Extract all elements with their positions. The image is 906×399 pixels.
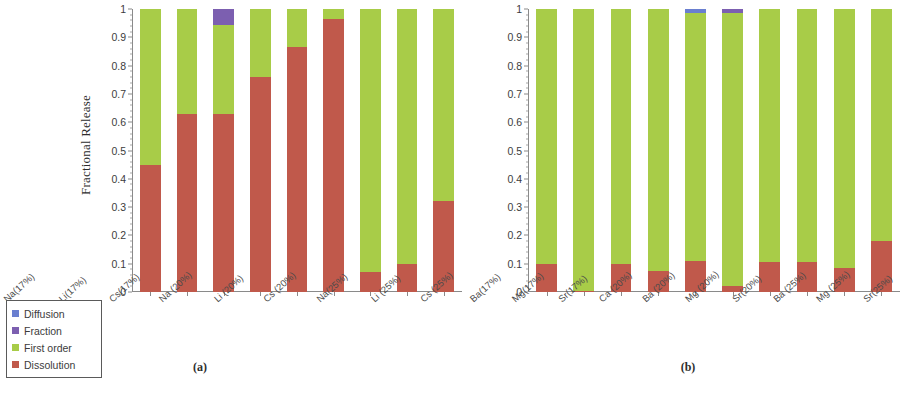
bar-segment-dissolution bbox=[287, 47, 308, 292]
x-axis-labels-b: Ba(17%)Mg(17%)Sr(17%)Ca (20%)Ba (20%)Mg … bbox=[470, 292, 906, 352]
legend-item-label: Diffusion bbox=[24, 308, 65, 320]
bar-segment-fraction bbox=[213, 9, 234, 25]
y-axis-tick-mark bbox=[524, 150, 528, 151]
panel-caption-b: (b) bbox=[470, 360, 906, 375]
legend-item[interactable]: Dissolution bbox=[12, 356, 97, 373]
y-axis-minor-tick bbox=[130, 224, 133, 225]
y-axis-minor-tick bbox=[130, 48, 133, 49]
y-axis-minor-tick bbox=[526, 105, 529, 106]
bar-segment-dissolution bbox=[759, 262, 780, 292]
y-axis-minor-tick bbox=[526, 161, 529, 162]
stacked-bar[interactable] bbox=[287, 9, 308, 292]
y-axis-tick-mark bbox=[128, 93, 132, 94]
chart-panel-b: 00.10.20.30.40.50.60.70.80.91 Ba(17%)Mg(… bbox=[470, 0, 906, 399]
stacked-bar[interactable] bbox=[834, 9, 855, 292]
bar-slot bbox=[389, 9, 426, 292]
x-label-slot: Cs(17%) bbox=[104, 292, 156, 352]
y-axis-minor-tick bbox=[526, 173, 529, 174]
stacked-bar[interactable] bbox=[611, 9, 632, 292]
x-label-slot: Sr(25%) bbox=[862, 292, 906, 352]
x-label-slot: Mg (20%) bbox=[688, 292, 732, 352]
bar-segment-first-order bbox=[433, 9, 454, 201]
y-axis-tick-mark bbox=[128, 150, 132, 151]
bar-segment-first-order bbox=[611, 9, 632, 264]
bar-slot bbox=[132, 9, 169, 292]
y-axis-minor-tick bbox=[526, 110, 529, 111]
bar-segment-first-order bbox=[323, 9, 344, 19]
x-label-slot: Mg(17%) bbox=[514, 292, 558, 352]
y-axis-minor-tick bbox=[130, 116, 133, 117]
stacked-bar[interactable] bbox=[360, 9, 381, 292]
bar-slot bbox=[279, 9, 316, 292]
y-axis-tick-mark bbox=[128, 235, 132, 236]
y-axis-minor-tick bbox=[130, 246, 133, 247]
stacked-bar[interactable] bbox=[323, 9, 344, 292]
y-axis-tick-mark bbox=[128, 122, 132, 123]
stacked-bar[interactable] bbox=[648, 9, 669, 292]
bar-slot bbox=[528, 9, 565, 292]
bar-segment-dissolution bbox=[177, 114, 198, 292]
bar-segment-first-order bbox=[834, 9, 855, 268]
bar-segment-dissolution bbox=[213, 114, 234, 292]
bar-segment-first-order bbox=[685, 13, 706, 261]
x-label-slot: Li (25%) bbox=[366, 292, 418, 352]
stacked-bar[interactable] bbox=[397, 9, 418, 292]
x-axis-tick-label: Ba(17%) bbox=[467, 271, 502, 304]
bar-segment-first-order bbox=[573, 9, 594, 291]
bar-segment-first-order bbox=[250, 9, 271, 77]
legend-swatch-icon bbox=[12, 361, 19, 368]
x-label-slot: Mg (25%) bbox=[819, 292, 863, 352]
x-label-slot: Na (20%) bbox=[157, 292, 209, 352]
legend-item-label: Dissolution bbox=[24, 359, 75, 371]
bar-segment-first-order bbox=[140, 9, 161, 165]
y-axis-minor-tick bbox=[526, 275, 529, 276]
plot-area-b: 00.10.20.30.40.50.60.70.80.91 bbox=[528, 9, 900, 292]
y-axis-minor-tick bbox=[526, 258, 529, 259]
bar-segment-dissolution bbox=[250, 77, 271, 292]
stacked-bar[interactable] bbox=[140, 9, 161, 292]
x-label-slot: Ba (20%) bbox=[644, 292, 688, 352]
y-axis-minor-tick bbox=[130, 133, 133, 134]
stacked-bar[interactable] bbox=[433, 9, 454, 292]
x-label-slot: Sr(20%) bbox=[732, 292, 776, 352]
bar-segment-first-order bbox=[871, 9, 892, 241]
bar-segment-first-order bbox=[536, 9, 557, 264]
legend-item[interactable]: Diffusion bbox=[12, 305, 97, 322]
bar-segment-first-order bbox=[797, 9, 818, 262]
legend-swatch-icon bbox=[12, 327, 19, 334]
stacked-bar[interactable] bbox=[871, 9, 892, 292]
stacked-bar[interactable] bbox=[759, 9, 780, 292]
plot-area-a: 00.10.20.30.40.50.60.70.80.91 bbox=[132, 9, 462, 292]
y-axis-tick-mark bbox=[128, 178, 132, 179]
stacked-bar[interactable] bbox=[573, 9, 594, 292]
bar-slot bbox=[863, 9, 900, 292]
stacked-bar[interactable] bbox=[177, 9, 198, 292]
stacked-bar[interactable] bbox=[250, 9, 271, 292]
legend-item[interactable]: First order bbox=[12, 339, 97, 356]
stacked-bar[interactable] bbox=[213, 9, 234, 292]
y-axis-tick-mark bbox=[128, 65, 132, 66]
y-axis-minor-tick bbox=[130, 25, 133, 26]
stacked-bar[interactable] bbox=[722, 9, 743, 292]
y-axis-minor-tick bbox=[130, 218, 133, 219]
y-axis-minor-tick bbox=[526, 195, 529, 196]
bar-slot bbox=[788, 9, 825, 292]
y-axis-tick-mark bbox=[524, 263, 528, 264]
y-axis-minor-tick bbox=[130, 139, 133, 140]
bar-slot bbox=[242, 9, 279, 292]
bar-segment-first-order bbox=[213, 25, 234, 114]
y-axis-tick-mark bbox=[128, 9, 132, 10]
x-label-slot: Cs (25%) bbox=[418, 292, 470, 352]
stacked-bar[interactable] bbox=[685, 9, 706, 292]
bar-group-b bbox=[528, 9, 900, 292]
y-axis-minor-tick bbox=[526, 190, 529, 191]
y-axis-minor-tick bbox=[130, 161, 133, 162]
y-axis-minor-tick bbox=[526, 116, 529, 117]
y-axis-minor-tick bbox=[526, 59, 529, 60]
legend-item[interactable]: Fraction bbox=[12, 322, 97, 339]
y-axis-minor-tick bbox=[130, 31, 133, 32]
bar-slot bbox=[352, 9, 389, 292]
y-axis-minor-tick bbox=[526, 82, 529, 83]
stacked-bar[interactable] bbox=[797, 9, 818, 292]
stacked-bar[interactable] bbox=[536, 9, 557, 292]
